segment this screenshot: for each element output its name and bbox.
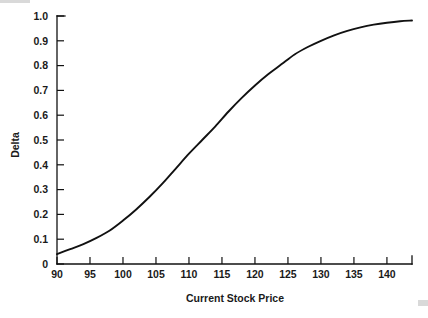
x-tick-label: 105 — [147, 268, 165, 280]
scan-artifact-bottom — [418, 300, 428, 306]
delta-curve — [57, 20, 412, 254]
x-tick-label: 135 — [345, 268, 363, 280]
y-tick-label: 0.1 — [33, 233, 48, 245]
x-axis-title: Current Stock Price — [186, 292, 284, 304]
y-tick-label: 0.7 — [33, 84, 48, 96]
x-tick-label: 120 — [246, 268, 264, 280]
y-tick-label: 0.8 — [33, 59, 48, 71]
x-tick-label: 100 — [114, 268, 132, 280]
y-tick-label: 0.3 — [33, 183, 48, 195]
x-tick-label: 115 — [213, 268, 230, 280]
y-tick-label: 0.9 — [33, 35, 48, 47]
y-tick-label: 0.2 — [33, 208, 48, 220]
y-axis-tick-labels: 00.10.20.30.40.50.60.70.80.91.0 — [33, 10, 48, 270]
x-tick-label: 110 — [180, 268, 197, 280]
y-axis-title: Delta — [9, 132, 21, 158]
scan-artifact-top — [0, 0, 30, 3]
x-tick-label: 130 — [312, 268, 330, 280]
y-tick-label: 0 — [42, 258, 48, 270]
y-tick-label: 0.5 — [33, 134, 48, 146]
x-axis-ticks — [57, 257, 387, 264]
x-tick-label: 125 — [279, 268, 297, 280]
x-tick-label: 140 — [378, 268, 396, 280]
y-tick-label: 0.4 — [33, 159, 48, 171]
x-tick-label: 90 — [51, 268, 63, 280]
x-axis-tick-labels: 9095100105110115120125130135140 — [51, 268, 396, 280]
y-tick-label: 0.6 — [33, 109, 48, 121]
delta-line-chart: 00.10.20.30.40.50.60.70.80.91.0 90951001… — [0, 0, 428, 318]
y-axis-ticks — [57, 16, 64, 264]
chart-container: 00.10.20.30.40.50.60.70.80.91.0 90951001… — [0, 0, 428, 318]
x-tick-label: 95 — [84, 268, 96, 280]
y-tick-label: 1.0 — [33, 10, 48, 22]
